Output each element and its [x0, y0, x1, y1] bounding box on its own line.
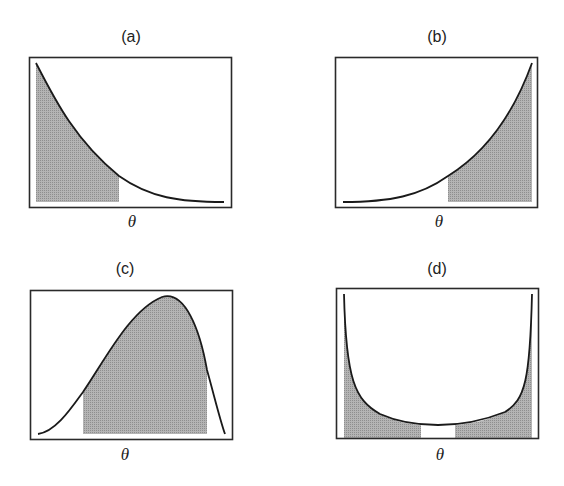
panel-c-title: (c)	[116, 261, 135, 277]
panel-b-shaded-region	[448, 63, 532, 202]
panel-c-shaded-region	[83, 296, 207, 434]
panel-d-shaded-left	[344, 294, 421, 438]
figure-canvas	[0, 0, 564, 486]
panel-b-title: (b)	[427, 29, 447, 45]
panel-d-density-curve	[344, 294, 532, 425]
panel-a-xlabel: θ	[128, 213, 136, 230]
panel-b-xlabel: θ	[435, 213, 443, 230]
panel-d-plot	[337, 289, 539, 439]
panel-b-plot	[336, 58, 538, 208]
panel-a-plot	[30, 58, 232, 208]
panel-c-xlabel: θ	[121, 446, 129, 463]
panel-d-title: (d)	[427, 261, 447, 277]
panel-a-title: (a)	[121, 29, 141, 45]
panel-c-plot	[31, 291, 233, 440]
panel-d-xlabel: θ	[436, 446, 444, 463]
